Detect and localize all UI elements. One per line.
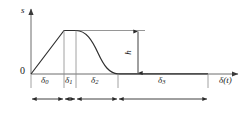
x-axis-label: δ(t): [219, 76, 232, 85]
segment-label-d1-subscript: 1: [69, 78, 72, 85]
x-axis-label-close: ): [229, 75, 232, 85]
segment-label-d3-subscript: 3: [162, 78, 165, 85]
segment-label-d2-subscript: 2: [95, 78, 98, 85]
segment-label-d1: δ1: [65, 76, 72, 86]
segment-label-d2: δ2: [91, 76, 98, 86]
displacement-curve: [31, 31, 208, 75]
y-axis-label: s: [21, 6, 25, 15]
segment-label-d0: δ0: [41, 76, 48, 86]
origin-label: 0: [20, 66, 25, 76]
segment-label-d0-subscript: 0: [45, 78, 48, 85]
height-label: h: [124, 50, 133, 55]
diagram-canvas: [0, 0, 249, 121]
displacement-diagram-figure: s 0 h δ0 δ1 δ2 δ3 δ(t): [0, 0, 249, 121]
segment-label-d3: δ3: [158, 76, 165, 86]
